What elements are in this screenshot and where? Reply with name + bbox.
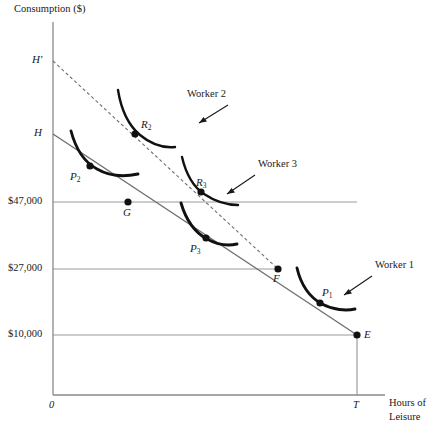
y-axis-title: Consumption ($) <box>14 4 85 15</box>
label-point-p1-base: P <box>322 286 329 298</box>
x-endpoint-label: T <box>353 400 359 411</box>
annotation-worker-2: Worker 2 <box>187 89 226 100</box>
arrow-worker-1 <box>344 276 372 295</box>
label-point-f: F <box>273 273 280 284</box>
dot-p1 <box>316 299 323 306</box>
label-point-g: G <box>123 207 131 218</box>
label-point-p3: P3 <box>190 243 200 254</box>
label-point-e: E <box>364 329 371 340</box>
budget-line-original <box>53 134 357 335</box>
label-point-p2: P2 <box>70 171 80 182</box>
label-point-p2-base: P <box>70 170 77 182</box>
label-point-r2: R2 <box>141 119 151 130</box>
label-point-p1: P1 <box>322 287 332 298</box>
economics-figure: Consumption ($) Hours of Leisure $47,000… <box>0 0 436 433</box>
indifference-curve-p2 <box>71 131 138 176</box>
label-point-r3-sub: 3 <box>203 181 207 190</box>
label-point-e-base: E <box>364 328 371 340</box>
dot-e <box>353 331 360 338</box>
y-tick-label-10000: $10,000 <box>8 329 42 340</box>
label-h: H <box>34 127 42 138</box>
label-point-p1-sub: 1 <box>329 291 333 300</box>
x-axis-title-line1: Hours of <box>389 398 426 409</box>
label-h-prime: H′ <box>32 54 42 65</box>
label-point-f-base: F <box>273 272 280 284</box>
arrow-worker-3 <box>227 175 255 194</box>
y-tick-label-47000: $47,000 <box>8 196 42 207</box>
dot-r2 <box>131 130 138 137</box>
figure-canvas <box>0 0 436 433</box>
label-point-g-base: G <box>123 206 131 218</box>
annotation-worker-3: Worker 3 <box>258 159 297 170</box>
annotation-worker-1: Worker 1 <box>375 260 414 271</box>
arrow-worker-2 <box>199 105 228 123</box>
label-point-r2-base: R <box>141 118 148 130</box>
label-point-p2-sub: 2 <box>77 175 81 184</box>
label-point-r2-sub: 2 <box>148 123 152 132</box>
label-point-p3-sub: 3 <box>197 247 201 256</box>
dot-p2 <box>86 162 93 169</box>
label-point-p3-base: P <box>190 242 197 254</box>
label-point-r3-base: R <box>196 176 203 188</box>
origin-label: 0 <box>49 400 54 411</box>
x-axis-title-line2: Leisure <box>389 412 421 423</box>
y-tick-label-27000: $27,000 <box>8 263 42 274</box>
indifference-curve-r3 <box>182 157 238 205</box>
dot-g <box>124 198 131 205</box>
dot-p3 <box>202 234 209 241</box>
label-point-r3: R3 <box>196 177 206 188</box>
